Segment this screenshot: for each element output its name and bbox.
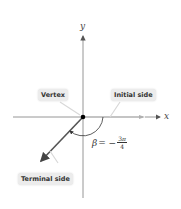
terminal-side-leader — [50, 151, 58, 163]
initial-side-label: Initial side — [111, 89, 156, 101]
numerator-pi: π — [122, 135, 126, 142]
leader-lines — [50, 102, 120, 163]
angle-denominator: 4 — [120, 143, 124, 150]
angle-fraction: 3π 4 — [117, 135, 127, 150]
angle-value-label: β = − 3π 4 — [92, 135, 127, 150]
y-axis-label: y — [80, 22, 85, 31]
angle-numerator: 3π — [117, 135, 127, 143]
angle-equals: = − — [98, 138, 116, 148]
initial-side-leader — [110, 102, 120, 117]
x-axis — [13, 115, 160, 119]
initial-side-arrowhead-icon — [139, 115, 145, 119]
terminal-side-label: Terminal side — [18, 173, 73, 185]
vertex-point — [81, 115, 86, 120]
vertex-leader — [60, 102, 80, 115]
angle-symbol: β — [92, 138, 97, 148]
x-axis-label: x — [164, 112, 169, 121]
terminal-side-ray — [41, 117, 83, 161]
vertex-label: Vertex — [38, 89, 68, 101]
